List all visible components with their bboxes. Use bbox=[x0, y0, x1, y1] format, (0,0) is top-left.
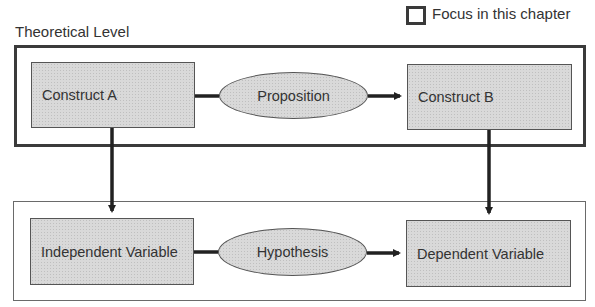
construct-a-label: Construct A bbox=[42, 87, 117, 103]
independent-variable-node: Independent Variable bbox=[30, 218, 194, 285]
proposition-node: Proposition bbox=[219, 72, 368, 119]
dependent-variable-label: Dependent Variable bbox=[417, 246, 544, 262]
independent-variable-label: Independent Variable bbox=[41, 244, 178, 260]
construct-a-node: Construct A bbox=[31, 62, 195, 128]
proposition-label: Proposition bbox=[257, 88, 330, 104]
construct-b-label: Construct B bbox=[418, 89, 494, 105]
dependent-variable-node: Dependent Variable bbox=[406, 220, 571, 287]
construct-b-node: Construct B bbox=[407, 64, 572, 130]
hypothesis-label: Hypothesis bbox=[257, 244, 329, 260]
hypothesis-node: Hypothesis bbox=[218, 228, 367, 276]
